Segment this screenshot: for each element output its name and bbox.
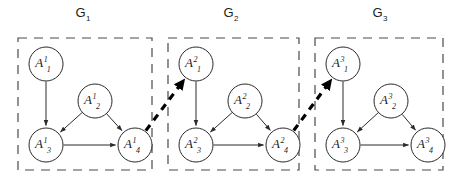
- node-a3_3[interactable]: A33: [326, 128, 360, 162]
- node-a2_3[interactable]: A23: [179, 128, 213, 162]
- node-a1_1[interactable]: A11: [29, 47, 63, 81]
- node-label-superscript: 2: [193, 136, 197, 145]
- node-label-subscript: 3: [196, 146, 201, 155]
- node-a2_2[interactable]: A22: [228, 84, 262, 118]
- node-label-superscript: 1: [132, 136, 136, 145]
- node-label-subscript: 1: [344, 65, 348, 74]
- node-label-superscript: 2: [280, 136, 284, 145]
- diagram-svg: A11A12A13A14A21A22A23A24A31A32A33A34 G1G…: [0, 0, 462, 189]
- node-label-base: A: [233, 92, 242, 107]
- node-label-subscript: 4: [284, 146, 288, 155]
- group-titles-layer: G1G2G3: [75, 5, 388, 23]
- node-label-subscript: 2: [392, 102, 396, 111]
- node-label-superscript: 1: [44, 55, 48, 64]
- node-label-subscript: 3: [343, 146, 348, 155]
- edge-a1_2-to-a1_4: [107, 114, 122, 131]
- node-label-base: A: [34, 55, 43, 70]
- group-title-g2: G2: [223, 5, 239, 23]
- diagram-canvas: A11A12A13A14A21A22A23A24A31A32A33A34 G1G…: [0, 0, 462, 189]
- node-label-superscript: 2: [193, 55, 197, 64]
- node-a3_1[interactable]: A31: [326, 47, 360, 81]
- node-label-base: A: [184, 55, 193, 70]
- node-label-superscript: 1: [43, 136, 47, 145]
- node-label-superscript: 2: [242, 92, 246, 101]
- node-label-subscript: 2: [246, 102, 250, 111]
- edge-a3_2-to-a3_3: [357, 113, 378, 132]
- node-label-subscript: 2: [96, 102, 100, 111]
- edge-a2_2-to-a2_4: [256, 114, 270, 130]
- node-a1_4[interactable]: A14: [118, 128, 152, 162]
- node-label-superscript: 3: [339, 55, 344, 64]
- node-label-subscript: 4: [136, 146, 140, 155]
- node-a2_1[interactable]: A21: [179, 47, 213, 81]
- node-label-base: A: [416, 136, 425, 151]
- edge-a1_2-to-a1_3: [61, 113, 82, 132]
- node-label-superscript: 3: [387, 92, 392, 101]
- node-label-base: A: [331, 55, 340, 70]
- group-title-subscript: 2: [234, 14, 239, 23]
- node-label-base: A: [331, 136, 340, 151]
- node-circle: [29, 47, 63, 81]
- group-title-g3: G3: [372, 5, 388, 23]
- node-label-base: A: [123, 136, 132, 151]
- node-label-base: A: [34, 136, 43, 151]
- node-label-subscript: 4: [429, 146, 433, 155]
- node-label-subscript: 3: [46, 146, 51, 155]
- node-label-base: A: [271, 136, 280, 151]
- node-label-subscript: 1: [197, 65, 201, 74]
- node-label-superscript: 3: [339, 136, 344, 145]
- node-a2_4[interactable]: A24: [266, 128, 300, 162]
- edge-a2_2-to-a2_3: [211, 113, 232, 132]
- node-a1_3[interactable]: A13: [29, 128, 63, 162]
- group-title-base: G: [372, 5, 382, 20]
- node-label-base: A: [184, 136, 193, 151]
- group-title-subscript: 3: [383, 14, 388, 23]
- node-label-base: A: [83, 92, 92, 107]
- node-label-superscript: 3: [424, 136, 429, 145]
- node-a1_2[interactable]: A12: [78, 84, 112, 118]
- node-label-base: A: [379, 92, 388, 107]
- node-label-subscript: 1: [47, 65, 51, 74]
- node-a3_4[interactable]: A34: [411, 128, 445, 162]
- group-title-base: G: [75, 5, 85, 20]
- node-a3_2[interactable]: A32: [374, 84, 408, 118]
- group-title-g1: G1: [75, 5, 91, 23]
- node-label-superscript: 1: [92, 92, 96, 101]
- edge-a3_2-to-a3_4: [402, 114, 415, 130]
- group-title-base: G: [223, 5, 233, 20]
- group-title-subscript: 1: [86, 14, 91, 23]
